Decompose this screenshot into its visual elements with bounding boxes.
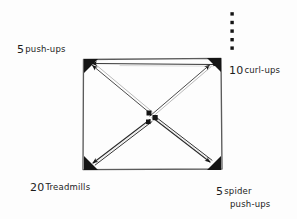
arrow-center-to-bottom-left (93, 120, 152, 166)
station-exercise-bottom-left: Treadmills (45, 182, 90, 192)
station-label-top-left: 5push-ups (17, 38, 66, 57)
center-marker-upper (147, 111, 152, 116)
station-quantity-top-left: 5 (17, 43, 24, 56)
dot-5 (230, 46, 233, 49)
station-quantity-top-right: 10 (229, 64, 243, 77)
arrow-center-to-bottom-right (153, 116, 212, 162)
station-label-top-right: 10curl-ups (229, 59, 280, 78)
station-quantity-bottom-left: 20 (30, 181, 44, 194)
arrow-center-to-top-right (150, 65, 211, 118)
arrow-top-edge-right-to-left (92, 63, 216, 66)
station-exercise-bottom-right-line2: push-ups (230, 200, 270, 210)
dot-column (230, 12, 233, 50)
station-quantity-bottom-right: 5 (216, 185, 223, 198)
corner-marker-bottom-left (84, 156, 98, 170)
sketch-canvas: 5push-ups 10curl-ups 20Treadmills 5spide… (0, 0, 297, 219)
dot-1 (230, 12, 233, 15)
top-edge-origin-dot (213, 63, 216, 66)
center-marker-lower (146, 120, 151, 125)
dot-3 (230, 29, 233, 32)
station-label-bottom-left: 20Treadmills (30, 176, 90, 195)
station-label-bottom-right: 5spider push-ups (216, 180, 270, 209)
corner-marker-top-left (84, 59, 98, 73)
dot-2 (230, 21, 233, 24)
arrow-center-to-top-left (93, 64, 153, 114)
dot-4 (230, 38, 233, 41)
station-exercise-top-right: curl-ups (244, 65, 280, 75)
station-exercise-top-left: push-ups (25, 44, 65, 54)
station-exercise-bottom-right: spider (224, 186, 252, 196)
diagonal-arrows (93, 64, 213, 165)
center-marker-middle (153, 115, 158, 120)
